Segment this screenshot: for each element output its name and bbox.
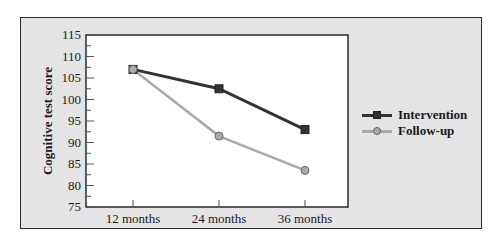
square-marker-icon <box>362 110 392 120</box>
circle-marker-icon <box>362 126 392 136</box>
y-tick-label: 95 <box>68 113 81 128</box>
y-tick-label: 110 <box>62 49 81 64</box>
y-tick-label: 80 <box>68 178 81 193</box>
square-marker-icon <box>215 85 223 93</box>
legend-item-intervention: Intervention <box>362 107 467 123</box>
legend: Intervention Follow-up <box>362 107 467 139</box>
y-tick-label: 75 <box>68 199 81 214</box>
y-tick-label: 90 <box>68 135 81 150</box>
circle-marker-icon <box>215 132 223 140</box>
legend-label: Intervention <box>398 107 467 123</box>
legend-label: Follow-up <box>398 123 454 139</box>
y-tick-label: 115 <box>62 27 81 42</box>
x-tick-label: 12 months <box>106 211 161 226</box>
x-tick-label: 24 months <box>192 211 247 226</box>
y-tick-label: 85 <box>68 156 81 171</box>
square-marker-icon <box>301 126 309 134</box>
plot-area <box>86 35 348 207</box>
x-tick-label: 36 months <box>278 211 333 226</box>
circle-marker-icon <box>301 166 309 174</box>
legend-item-follow-up: Follow-up <box>362 123 467 139</box>
y-axis-title: Cognitive test score <box>40 67 55 175</box>
y-tick-label: 100 <box>62 92 82 107</box>
y-tick-label: 105 <box>62 70 82 85</box>
circle-marker-icon <box>129 65 137 73</box>
